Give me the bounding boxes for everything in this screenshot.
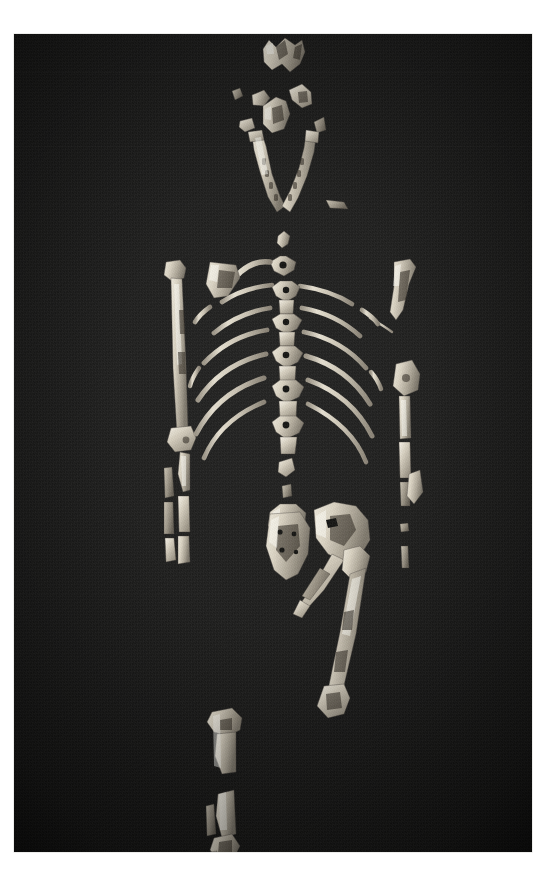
region-tibia-fibula-distal	[206, 790, 240, 852]
region-facial-and-skull-fragments	[232, 84, 326, 133]
region-left-radius-ulna	[164, 452, 190, 564]
region-mandible	[248, 130, 319, 212]
region-thoracic-vertebrae	[272, 281, 304, 454]
region-left-humerus	[164, 260, 196, 452]
skeleton-layout	[14, 34, 532, 852]
region-cervical-vertebrae	[270, 231, 296, 276]
page-canvas: Fossil hominid partial skeleton laid out…	[0, 0, 558, 887]
fossil-skeleton-photograph	[14, 34, 532, 852]
region-cranium	[263, 38, 305, 72]
region-tibia-proximal	[207, 708, 242, 774]
region-right-radius-ulna	[393, 360, 423, 568]
region-sacrum	[266, 512, 310, 580]
bone-fragment-hyoid	[326, 200, 348, 209]
